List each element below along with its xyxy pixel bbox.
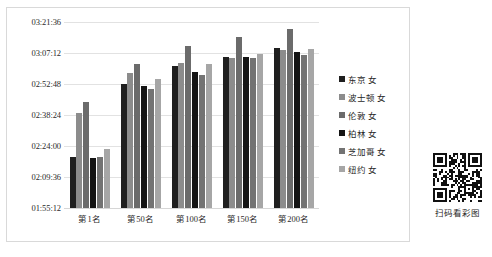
bar-series-layer bbox=[64, 22, 319, 208]
y-axis: 03:21:3603:07:1202:52:4802:38:2402:24:00… bbox=[15, 8, 61, 228]
x-axis-tick-label: 第100名 bbox=[176, 212, 207, 224]
y-axis-tick-label: 01:55:12 bbox=[32, 203, 61, 213]
bar[interactable] bbox=[280, 50, 286, 208]
legend-item-label: 纽约 女 bbox=[348, 163, 377, 175]
legend-item-label: 芝加哥 女 bbox=[348, 145, 386, 157]
qr-caption: 扫码看彩图 bbox=[428, 206, 486, 218]
y-axis-tick-label: 02:38:24 bbox=[32, 110, 61, 120]
legend-item-label: 东京 女 bbox=[348, 73, 377, 85]
bar-group bbox=[64, 22, 319, 208]
legend-item[interactable]: 东京 女 bbox=[339, 70, 411, 88]
screenshot-root: 03:21:3603:07:1202:52:4802:38:2402:24:00… bbox=[0, 0, 492, 257]
plot-area bbox=[64, 22, 319, 208]
bar[interactable] bbox=[287, 29, 293, 208]
x-axis-tick-label: 第50名 bbox=[127, 212, 154, 224]
qr-panel: 扫码看彩图 bbox=[428, 153, 486, 218]
y-axis-tick-label: 03:21:36 bbox=[32, 17, 61, 27]
bar[interactable] bbox=[274, 48, 280, 208]
legend-swatch-icon bbox=[339, 166, 345, 172]
y-axis-tick-label: 02:09:36 bbox=[32, 172, 61, 182]
legend-swatch-icon bbox=[339, 112, 345, 118]
bar[interactable] bbox=[294, 52, 300, 208]
chart-container: 03:21:3603:07:1202:52:4802:38:2402:24:00… bbox=[6, 7, 410, 242]
legend-item-label: 波士顿 女 bbox=[348, 91, 386, 103]
legend-item-label: 伦敦 女 bbox=[348, 109, 377, 121]
bar[interactable] bbox=[301, 55, 307, 208]
chart-legend: 东京 女波士顿 女伦敦 女柏林 女芝加哥 女纽约 女 bbox=[339, 70, 411, 178]
legend-item[interactable]: 柏林 女 bbox=[339, 124, 411, 142]
bar[interactable] bbox=[308, 49, 314, 208]
legend-item[interactable]: 伦敦 女 bbox=[339, 106, 411, 124]
y-axis-tick-label: 03:07:12 bbox=[32, 48, 61, 58]
legend-item[interactable]: 波士顿 女 bbox=[339, 88, 411, 106]
legend-swatch-icon bbox=[339, 94, 345, 100]
legend-swatch-icon bbox=[339, 76, 345, 82]
y-axis-tick-label: 02:24:00 bbox=[32, 141, 61, 151]
x-axis-tick-label: 第1名 bbox=[78, 212, 100, 224]
legend-item[interactable]: 芝加哥 女 bbox=[339, 142, 411, 160]
y-axis-tick-label: 02:52:48 bbox=[32, 79, 61, 89]
legend-swatch-icon bbox=[339, 148, 345, 154]
x-axis: 第1名第50名第100名第150名第200名 bbox=[64, 210, 319, 230]
x-axis-tick-label: 第150名 bbox=[227, 212, 258, 224]
x-axis-tick-label: 第200名 bbox=[278, 212, 309, 224]
gridline bbox=[64, 208, 319, 209]
legend-swatch-icon bbox=[339, 130, 345, 136]
legend-item-label: 柏林 女 bbox=[348, 127, 377, 139]
legend-item[interactable]: 纽约 女 bbox=[339, 160, 411, 178]
qr-code-image[interactable] bbox=[433, 153, 482, 202]
